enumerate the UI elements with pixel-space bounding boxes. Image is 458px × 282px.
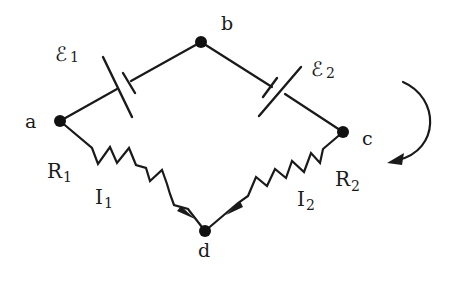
emf1-label: ℰ1: [55, 42, 79, 66]
node-a: [54, 115, 66, 127]
wire-emf2-c: [285, 94, 343, 132]
branch-b-c: [201, 42, 343, 132]
branch-a-b: [60, 42, 201, 121]
circuit-diagram: a b c d ℰ1 ℰ2 R1 R2 I1 I2: [0, 0, 458, 282]
node-b: [195, 36, 207, 48]
node-d-label: d: [198, 239, 210, 261]
wire-emf1-b: [131, 42, 201, 81]
i1-label: I1: [95, 185, 113, 211]
branch-c-d: [205, 132, 343, 231]
wire-a-emf1: [60, 89, 117, 121]
battery-emf1-icon: [103, 57, 135, 117]
emf2-label: ℰ2: [311, 57, 335, 81]
battery-emf2-icon: [259, 67, 301, 116]
r1-label: R1: [47, 159, 72, 185]
node-b-label: b: [221, 12, 233, 34]
curved-arrow-icon: [387, 82, 430, 165]
i2-label: I2: [297, 187, 315, 213]
current-i2-arrow-icon: [226, 201, 243, 215]
wire-b-emf2: [201, 42, 272, 87]
branch-a-d: [60, 121, 205, 231]
r2-label: R2: [335, 167, 360, 194]
resistor-r2-icon: [205, 132, 343, 231]
node-c-label: c: [362, 127, 373, 149]
node-c: [337, 126, 349, 138]
node-d: [199, 225, 211, 237]
node-a-label: a: [25, 110, 36, 132]
resistor-r1-icon: [60, 121, 205, 231]
